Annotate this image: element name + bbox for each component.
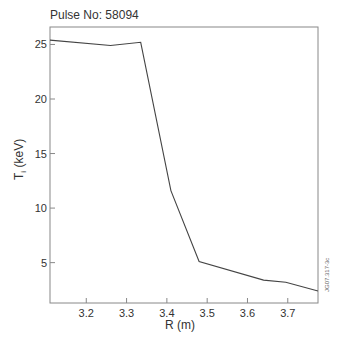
plot-frame bbox=[50, 27, 318, 303]
x-tick-label: 3.7 bbox=[280, 307, 295, 319]
ti-profile-line bbox=[50, 40, 318, 291]
y-tick-label: 20 bbox=[35, 93, 47, 105]
ticks: 3.23.33.43.53.63.7510152025 bbox=[35, 38, 296, 319]
y-tick-label: 5 bbox=[41, 257, 47, 269]
y-tick-label: 15 bbox=[35, 148, 47, 160]
x-tick-label: 3.5 bbox=[200, 307, 215, 319]
x-axis-label: R (m) bbox=[165, 318, 195, 332]
y-tick-label: 25 bbox=[35, 38, 47, 50]
x-tick-label: 3.6 bbox=[240, 307, 255, 319]
y-tick-label: 10 bbox=[35, 202, 47, 214]
figure-id-watermark: JG07.317-3c bbox=[324, 258, 330, 292]
x-tick-label: 3.2 bbox=[79, 307, 94, 319]
axes bbox=[50, 27, 318, 303]
x-tick-label: 3.3 bbox=[119, 307, 134, 319]
line-chart: 3.23.33.43.53.63.7510152025 bbox=[0, 0, 340, 343]
y-axis-label: Ti (keV) bbox=[12, 139, 28, 180]
